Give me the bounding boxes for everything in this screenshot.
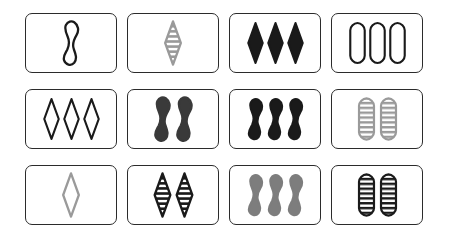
squiggle-open-icon: [61, 20, 81, 66]
diamond-open-icon: [61, 172, 81, 218]
set-card[interactable]: [25, 165, 117, 225]
squiggle-solid-icon: [287, 96, 304, 142]
diamond-open-icon: [63, 96, 80, 142]
pill-striped-icon: [379, 173, 398, 217]
set-card[interactable]: [127, 13, 219, 73]
pill-open-icon: [369, 21, 386, 65]
pill-striped-icon: [357, 97, 376, 141]
set-card[interactable]: [229, 89, 321, 149]
squiggle-solid-icon: [175, 96, 194, 142]
diamond-striped-icon: [153, 172, 172, 218]
diamond-striped-icon: [163, 20, 183, 66]
set-card[interactable]: [229, 165, 321, 225]
set-card[interactable]: [25, 13, 117, 73]
set-card[interactable]: [127, 165, 219, 225]
pill-striped-icon: [357, 173, 376, 217]
set-card-board: [0, 0, 457, 241]
diamond-solid-icon: [287, 20, 304, 66]
pill-open-icon: [389, 21, 406, 65]
diamond-open-icon: [83, 96, 100, 142]
diamond-solid-icon: [247, 20, 264, 66]
diamond-open-icon: [43, 96, 60, 142]
set-card[interactable]: [25, 89, 117, 149]
diamond-solid-icon: [267, 20, 284, 66]
set-card[interactable]: [331, 13, 423, 73]
squiggle-solid-icon: [267, 172, 284, 218]
set-card[interactable]: [127, 89, 219, 149]
diamond-striped-icon: [175, 172, 194, 218]
set-card[interactable]: [331, 89, 423, 149]
set-card[interactable]: [331, 165, 423, 225]
squiggle-solid-icon: [267, 96, 284, 142]
pill-striped-icon: [379, 97, 398, 141]
squiggle-solid-icon: [287, 172, 304, 218]
set-card[interactable]: [229, 13, 321, 73]
squiggle-solid-icon: [153, 96, 172, 142]
squiggle-solid-icon: [247, 96, 264, 142]
pill-open-icon: [349, 21, 366, 65]
squiggle-solid-icon: [247, 172, 264, 218]
